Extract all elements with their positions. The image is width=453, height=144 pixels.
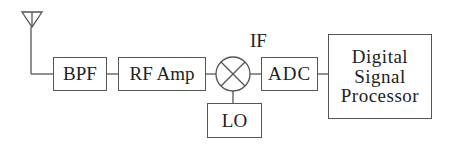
rf-amp-label: RF Amp <box>130 64 195 84</box>
bpf-label: BPF <box>63 64 97 84</box>
dsp-label-line-2: Signal <box>354 67 406 87</box>
dsp-label-line-3: Processor <box>341 86 419 106</box>
if-label: IF <box>250 30 267 52</box>
lo-block: LO <box>207 103 262 138</box>
adc-block: ADC <box>261 57 318 91</box>
lo-label: LO <box>222 111 247 131</box>
bpf-block: BPF <box>53 57 107 91</box>
adc-label: ADC <box>268 64 311 84</box>
mixer-icon <box>216 57 250 91</box>
dsp-block: Digital Signal Processor <box>328 34 432 119</box>
dsp-label-line-1: Digital <box>352 47 408 67</box>
rf-amp-block: RF Amp <box>118 57 206 91</box>
